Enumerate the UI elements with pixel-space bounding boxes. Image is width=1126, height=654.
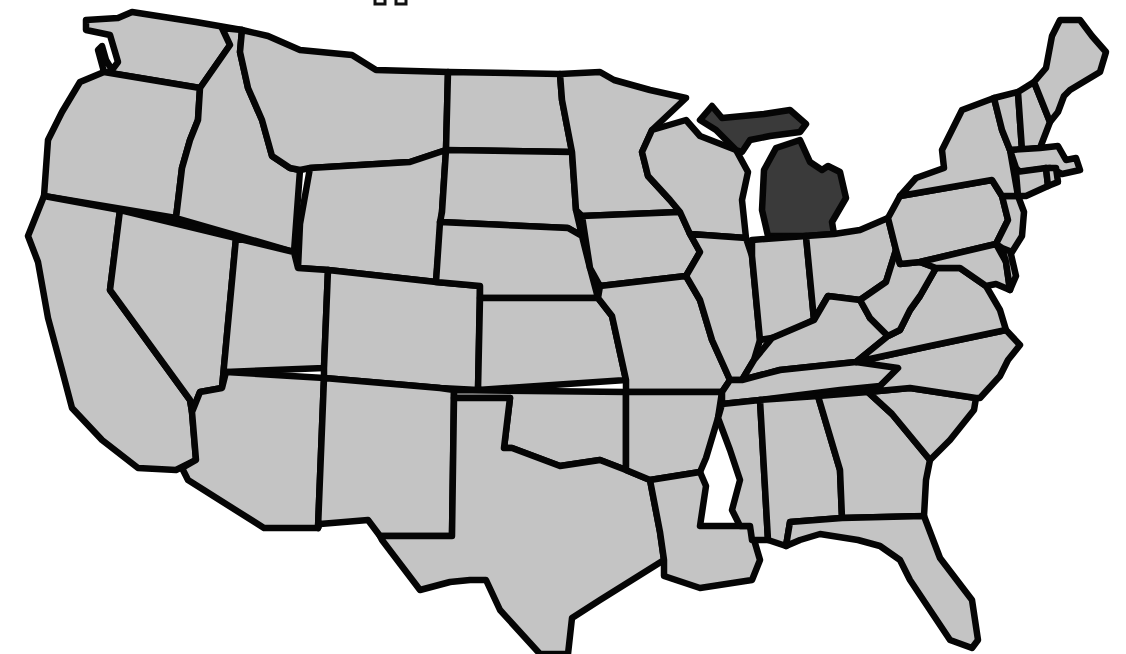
state-AZ[interactable]: Arizona — [182, 372, 324, 528]
state-CO[interactable]: Colorado — [324, 270, 480, 390]
state-NE[interactable]: Nebraska — [436, 222, 598, 298]
top-crop-marks — [375, 0, 406, 4]
us-map-svg: Washington Oregon California Idaho Nevad… — [0, 0, 1126, 654]
us-map: Washington Oregon California Idaho Nevad… — [0, 0, 1126, 654]
state-ND[interactable]: North Dakota — [446, 72, 572, 152]
state-KS[interactable]: Kansas — [478, 298, 626, 390]
state-RI[interactable]: Rhode Island — [1046, 168, 1058, 186]
state-ME[interactable]: Maine — [1034, 20, 1106, 122]
state-WY[interactable]: Wyoming — [298, 150, 446, 282]
state-AR[interactable]: Arkansas — [626, 392, 722, 480]
states-layer: Washington Oregon California Idaho Nevad… — [28, 12, 1106, 654]
state-MT[interactable]: Montana — [240, 30, 448, 170]
state-MI-lower[interactable]: Michigan — [762, 140, 846, 236]
state-FL[interactable]: Florida — [786, 516, 978, 648]
state-NM[interactable]: New Mexico — [318, 378, 454, 536]
